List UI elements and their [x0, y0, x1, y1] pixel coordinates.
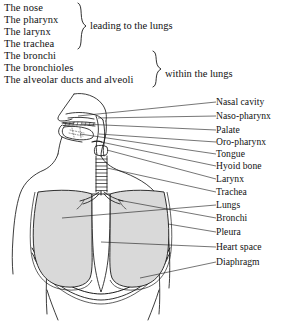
term-item: The pharynx: [4, 14, 58, 26]
label-oro-pharynx: Oro-pharynx: [216, 137, 266, 147]
term-group-lower-airway: The bronchi The bronchioles The alveolar…: [4, 50, 134, 86]
term-item: The nose: [4, 2, 58, 14]
term-group-upper-airway: The nose The pharynx The larynx The trac…: [4, 2, 58, 50]
label-pleura: Pleura: [216, 227, 241, 237]
pharynx-passage: [96, 116, 105, 156]
term-list: The bronchi The bronchioles The alveolar…: [4, 50, 134, 86]
label-hyoid-bone: Hyoid bone: [216, 161, 262, 171]
right-lung: [110, 190, 172, 290]
group-caption: leading to the lungs: [90, 20, 173, 32]
term-item: The bronchioles: [4, 62, 134, 74]
term-item: The bronchi: [4, 50, 134, 62]
heart-space: [92, 194, 110, 292]
anatomy-figure: [0, 92, 283, 324]
group-caption: within the lungs: [165, 68, 233, 80]
leader-tongue: [80, 134, 216, 154]
curly-brace-icon: [151, 50, 165, 88]
label-tongue: Tongue: [216, 149, 245, 159]
term-item: The trachea: [4, 38, 58, 50]
label-bronchi: Bronchi: [216, 213, 247, 223]
label-naso-pharynx: Naso-pharynx: [216, 111, 271, 121]
leader-oro-pharynx: [99, 134, 216, 142]
term-item: The larynx: [4, 26, 58, 38]
leader-nasal-cavity: [78, 102, 216, 116]
left-lung: [30, 190, 92, 290]
label-palate: Palate: [216, 125, 240, 135]
tongue-region: [62, 126, 93, 139]
curly-brace-icon: [76, 2, 90, 50]
leader-trachea: [107, 168, 216, 192]
diagram-page: The nose The pharynx The larynx The trac…: [0, 0, 283, 324]
term-item: The alveolar ducts and alveoli: [4, 74, 134, 86]
leader-naso-pharynx: [98, 116, 216, 118]
label-larynx: Larynx: [216, 174, 244, 184]
term-list: The nose The pharynx The larynx The trac…: [4, 2, 58, 50]
label-trachea: Trachea: [216, 187, 247, 197]
label-diaphragm: Diaphragm: [216, 257, 260, 267]
label-nasal-cavity: Nasal cavity: [216, 97, 264, 107]
label-heart-space: Heart space: [216, 242, 262, 252]
label-lungs: Lungs: [216, 200, 240, 210]
leader-palate: [82, 124, 216, 130]
leader-pleura: [168, 224, 216, 232]
